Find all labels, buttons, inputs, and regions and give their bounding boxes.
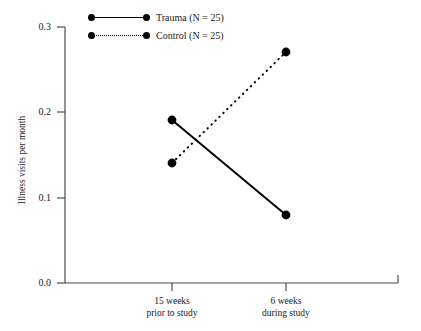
legend-label-trauma: Trauma (N = 25) bbox=[156, 12, 224, 24]
y-tick-label-0.3: 0.3 bbox=[23, 21, 51, 32]
y-tick-label-0.1: 0.1 bbox=[23, 192, 51, 203]
x-tick-label-2-line1: 6 weeks bbox=[271, 296, 302, 306]
x-tick-label-1-line2: prior to study bbox=[112, 308, 232, 320]
line-chart-plot bbox=[0, 0, 421, 331]
y-tick-label-0.0: 0.0 bbox=[23, 277, 51, 288]
data-point-trauma-1 bbox=[168, 116, 177, 125]
legend-dot-right-icon bbox=[143, 32, 150, 39]
y-tick-label-0.2: 0.2 bbox=[23, 106, 51, 117]
legend-dot-right-icon bbox=[143, 14, 150, 21]
chart-legend: Trauma (N = 25) Control (N = 25) bbox=[88, 11, 224, 43]
legend-line-dotted-icon bbox=[91, 35, 147, 36]
legend-swatch-solid-icon bbox=[88, 12, 150, 24]
legend-item-trauma: Trauma (N = 25) bbox=[88, 11, 224, 25]
data-point-trauma-2 bbox=[282, 211, 291, 220]
chart-figure: 0.3 0.2 0.1 0.0 Illness visits per month… bbox=[0, 0, 421, 331]
legend-line-icon bbox=[91, 17, 147, 18]
legend-item-control: Control (N = 25) bbox=[88, 29, 224, 43]
x-tick-label-1: 15 weeks prior to study bbox=[112, 296, 232, 319]
x-tick-label-2-line2: during study bbox=[226, 308, 346, 320]
x-tick-label-2: 6 weeks during study bbox=[226, 296, 346, 319]
series-line-control bbox=[172, 52, 286, 163]
legend-label-control: Control (N = 25) bbox=[156, 30, 224, 42]
y-axis-title: Illness visits per month bbox=[17, 90, 27, 230]
series-line-trauma bbox=[172, 120, 286, 215]
x-tick-label-1-line1: 15 weeks bbox=[154, 296, 190, 306]
legend-swatch-dotted-icon bbox=[88, 30, 150, 42]
data-point-control-1 bbox=[168, 159, 177, 168]
data-point-control-2 bbox=[282, 48, 291, 57]
